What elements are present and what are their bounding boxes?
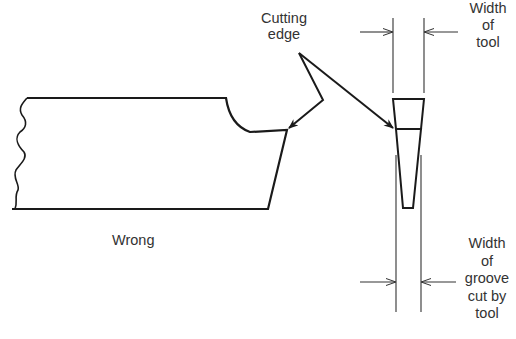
wrong-caption: Wrong bbox=[112, 232, 172, 248]
label-line: edge bbox=[236, 26, 332, 42]
cutting-edge-leaders bbox=[289, 53, 393, 128]
label-line: Width bbox=[458, 235, 516, 253]
label-line: cut by bbox=[458, 288, 516, 306]
workpiece-side-view bbox=[12, 98, 287, 209]
label-line: of bbox=[460, 17, 516, 34]
break-line-wavy bbox=[15, 98, 27, 209]
label-line: Cutting bbox=[236, 10, 332, 26]
diagram-canvas bbox=[0, 0, 516, 339]
label-line: tool bbox=[460, 34, 516, 51]
width-of-tool-label: Width of tool bbox=[460, 0, 516, 51]
cutting-edge-label: Cutting edge bbox=[236, 10, 332, 42]
workpiece-outline bbox=[12, 98, 287, 209]
label-line: of bbox=[458, 253, 516, 271]
tool-end-view bbox=[393, 99, 424, 208]
groove-width-dimension bbox=[360, 155, 456, 312]
leader-to-workpiece bbox=[289, 53, 323, 128]
tool-top-trapezoid bbox=[393, 99, 424, 129]
tool-taper bbox=[396, 129, 421, 208]
leader-to-tool bbox=[299, 53, 393, 128]
label-line: tool bbox=[458, 305, 516, 323]
width-of-groove-label: Width of groove cut by tool bbox=[458, 235, 516, 323]
label-line: groove bbox=[458, 270, 516, 288]
label-line: Width bbox=[460, 0, 516, 17]
tool-width-dimension bbox=[360, 18, 458, 93]
